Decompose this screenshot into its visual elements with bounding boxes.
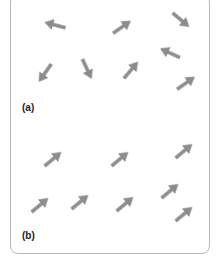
panel-label-b: (b) bbox=[22, 230, 35, 241]
arrow-icon bbox=[28, 193, 53, 216]
arrow-icon bbox=[169, 8, 194, 31]
arrow-icon bbox=[158, 179, 183, 202]
arrow-icon bbox=[113, 192, 138, 215]
arrow-icon bbox=[110, 16, 135, 38]
arrow-icon bbox=[172, 202, 197, 225]
arrow-icon bbox=[174, 72, 199, 94]
arrow-icon bbox=[41, 147, 66, 170]
arrow-icon bbox=[157, 43, 182, 63]
panel-label-a: (a) bbox=[22, 102, 34, 113]
arrow-icon bbox=[34, 61, 56, 86]
arrow-icon bbox=[77, 56, 97, 81]
arrow-icon bbox=[119, 58, 142, 83]
panel-a: (a) bbox=[0, 0, 218, 130]
panel-b: (b) bbox=[0, 130, 218, 260]
arrow-icon bbox=[108, 147, 133, 170]
arrow-icon bbox=[43, 16, 67, 33]
arrow-icon bbox=[172, 139, 197, 162]
arrow-icon bbox=[68, 190, 93, 213]
